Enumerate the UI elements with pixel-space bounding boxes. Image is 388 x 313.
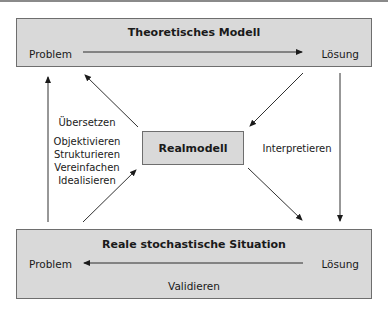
realmodel-to-theory-arrow [85, 75, 138, 127]
arrows-layer [0, 0, 388, 313]
realmodel-to-situation-arrow [248, 168, 302, 220]
theory-solution-to-realmodel-arrow [250, 73, 303, 126]
situation-to-realmodel-arrow [83, 170, 136, 222]
